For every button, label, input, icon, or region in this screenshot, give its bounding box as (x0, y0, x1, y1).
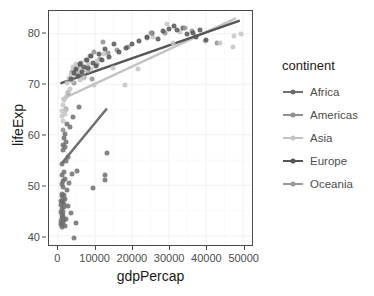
x-tick-label: 20000 (117, 252, 148, 264)
data-point (100, 40, 105, 45)
data-point (73, 67, 78, 72)
x-tick-mark (169, 246, 170, 250)
legend-item-label: Oceania (310, 178, 353, 190)
data-point (110, 66, 115, 71)
legend-item-label: Americas (310, 109, 358, 121)
data-point (62, 223, 67, 228)
data-point (61, 119, 66, 124)
data-point (93, 64, 98, 69)
y-tick-label: 80 (28, 27, 40, 39)
data-point (63, 196, 68, 201)
data-point (185, 31, 190, 36)
data-point (64, 107, 69, 112)
data-point (123, 83, 128, 88)
data-point (161, 29, 166, 34)
y-tick-mark (42, 134, 46, 135)
legend-item[interactable]: Oceania (282, 174, 372, 194)
y-axis-label: lifeExp (10, 85, 26, 165)
data-point (183, 25, 188, 30)
legend-item[interactable]: Africa (282, 82, 372, 102)
data-point (60, 128, 65, 133)
data-point (69, 77, 74, 82)
data-point (68, 86, 73, 91)
data-point (230, 45, 235, 50)
data-point (62, 145, 67, 150)
legend: continent Africa Americas Asia Europe Oc… (282, 58, 372, 197)
data-point (72, 235, 77, 240)
data-point (75, 168, 80, 173)
x-tick-mark (57, 246, 58, 250)
data-point (67, 125, 72, 130)
data-point (103, 172, 108, 177)
y-tick-mark (42, 83, 46, 84)
data-point (89, 76, 94, 81)
data-point (204, 37, 209, 42)
data-point (75, 74, 80, 79)
data-point (91, 186, 96, 191)
x-tick-mark (132, 246, 133, 250)
legend-item[interactable]: Americas (282, 105, 372, 125)
y-tick-label: 40 (28, 231, 40, 243)
data-point (149, 30, 154, 35)
plot-panel-wrapper (48, 10, 253, 246)
data-point (238, 31, 243, 36)
legend-key-icon (282, 154, 304, 168)
legend-item[interactable]: Asia (282, 128, 372, 148)
data-point (198, 27, 203, 32)
legend-key-icon (282, 85, 304, 99)
data-point (62, 170, 67, 175)
data-point (69, 171, 74, 176)
data-point (231, 34, 236, 39)
y-tick-label: 70 (28, 78, 40, 90)
legend-items: Africa Americas Asia Europe Oceania (282, 82, 372, 194)
x-tick-mark (244, 246, 245, 250)
data-point (70, 114, 75, 119)
y-tick-label: 50 (28, 180, 40, 192)
legend-key-icon (282, 131, 304, 145)
data-point (135, 66, 140, 71)
data-point (103, 47, 108, 52)
data-point (96, 51, 101, 56)
data-point (65, 203, 70, 208)
x-tick-mark (95, 246, 96, 250)
data-point (86, 66, 91, 71)
y-tick-mark (42, 32, 46, 33)
y-tick-mark (42, 185, 46, 186)
data-point (175, 27, 180, 32)
legend-item-label: Asia (310, 132, 332, 144)
scatter-plot-figure: 4050607080 lifeExp 010000200003000040000… (0, 0, 374, 296)
data-point (64, 187, 69, 192)
data-points-layer (49, 11, 252, 245)
data-point (137, 39, 142, 44)
data-point (68, 210, 73, 215)
data-point (130, 41, 135, 46)
x-axis-label: gdpPercap (48, 268, 253, 284)
y-tick-mark (42, 236, 46, 237)
data-point (117, 49, 122, 54)
legend-item[interactable]: Europe (282, 151, 372, 171)
data-point (62, 112, 67, 117)
x-tick-label: 0 (54, 252, 60, 264)
data-point (64, 216, 69, 221)
x-axis-tick-labels: 01000020000300004000050000 (48, 252, 253, 266)
data-point (155, 36, 160, 41)
data-point (76, 105, 81, 110)
x-tick-label: 40000 (191, 252, 222, 264)
data-point (89, 53, 94, 58)
data-point (102, 178, 107, 183)
data-point (63, 94, 68, 99)
data-point (61, 209, 66, 214)
legend-key-icon (282, 108, 304, 122)
legend-item-label: Europe (310, 155, 347, 167)
data-point (104, 150, 109, 155)
legend-title: continent (282, 58, 372, 73)
data-point (217, 40, 222, 45)
data-point (81, 76, 86, 81)
legend-key-icon (282, 177, 304, 191)
data-point (92, 83, 97, 88)
legend-item-label: Africa (310, 86, 339, 98)
data-point (106, 55, 111, 60)
data-point (64, 139, 69, 144)
x-tick-label: 30000 (154, 252, 185, 264)
data-point (144, 35, 149, 40)
